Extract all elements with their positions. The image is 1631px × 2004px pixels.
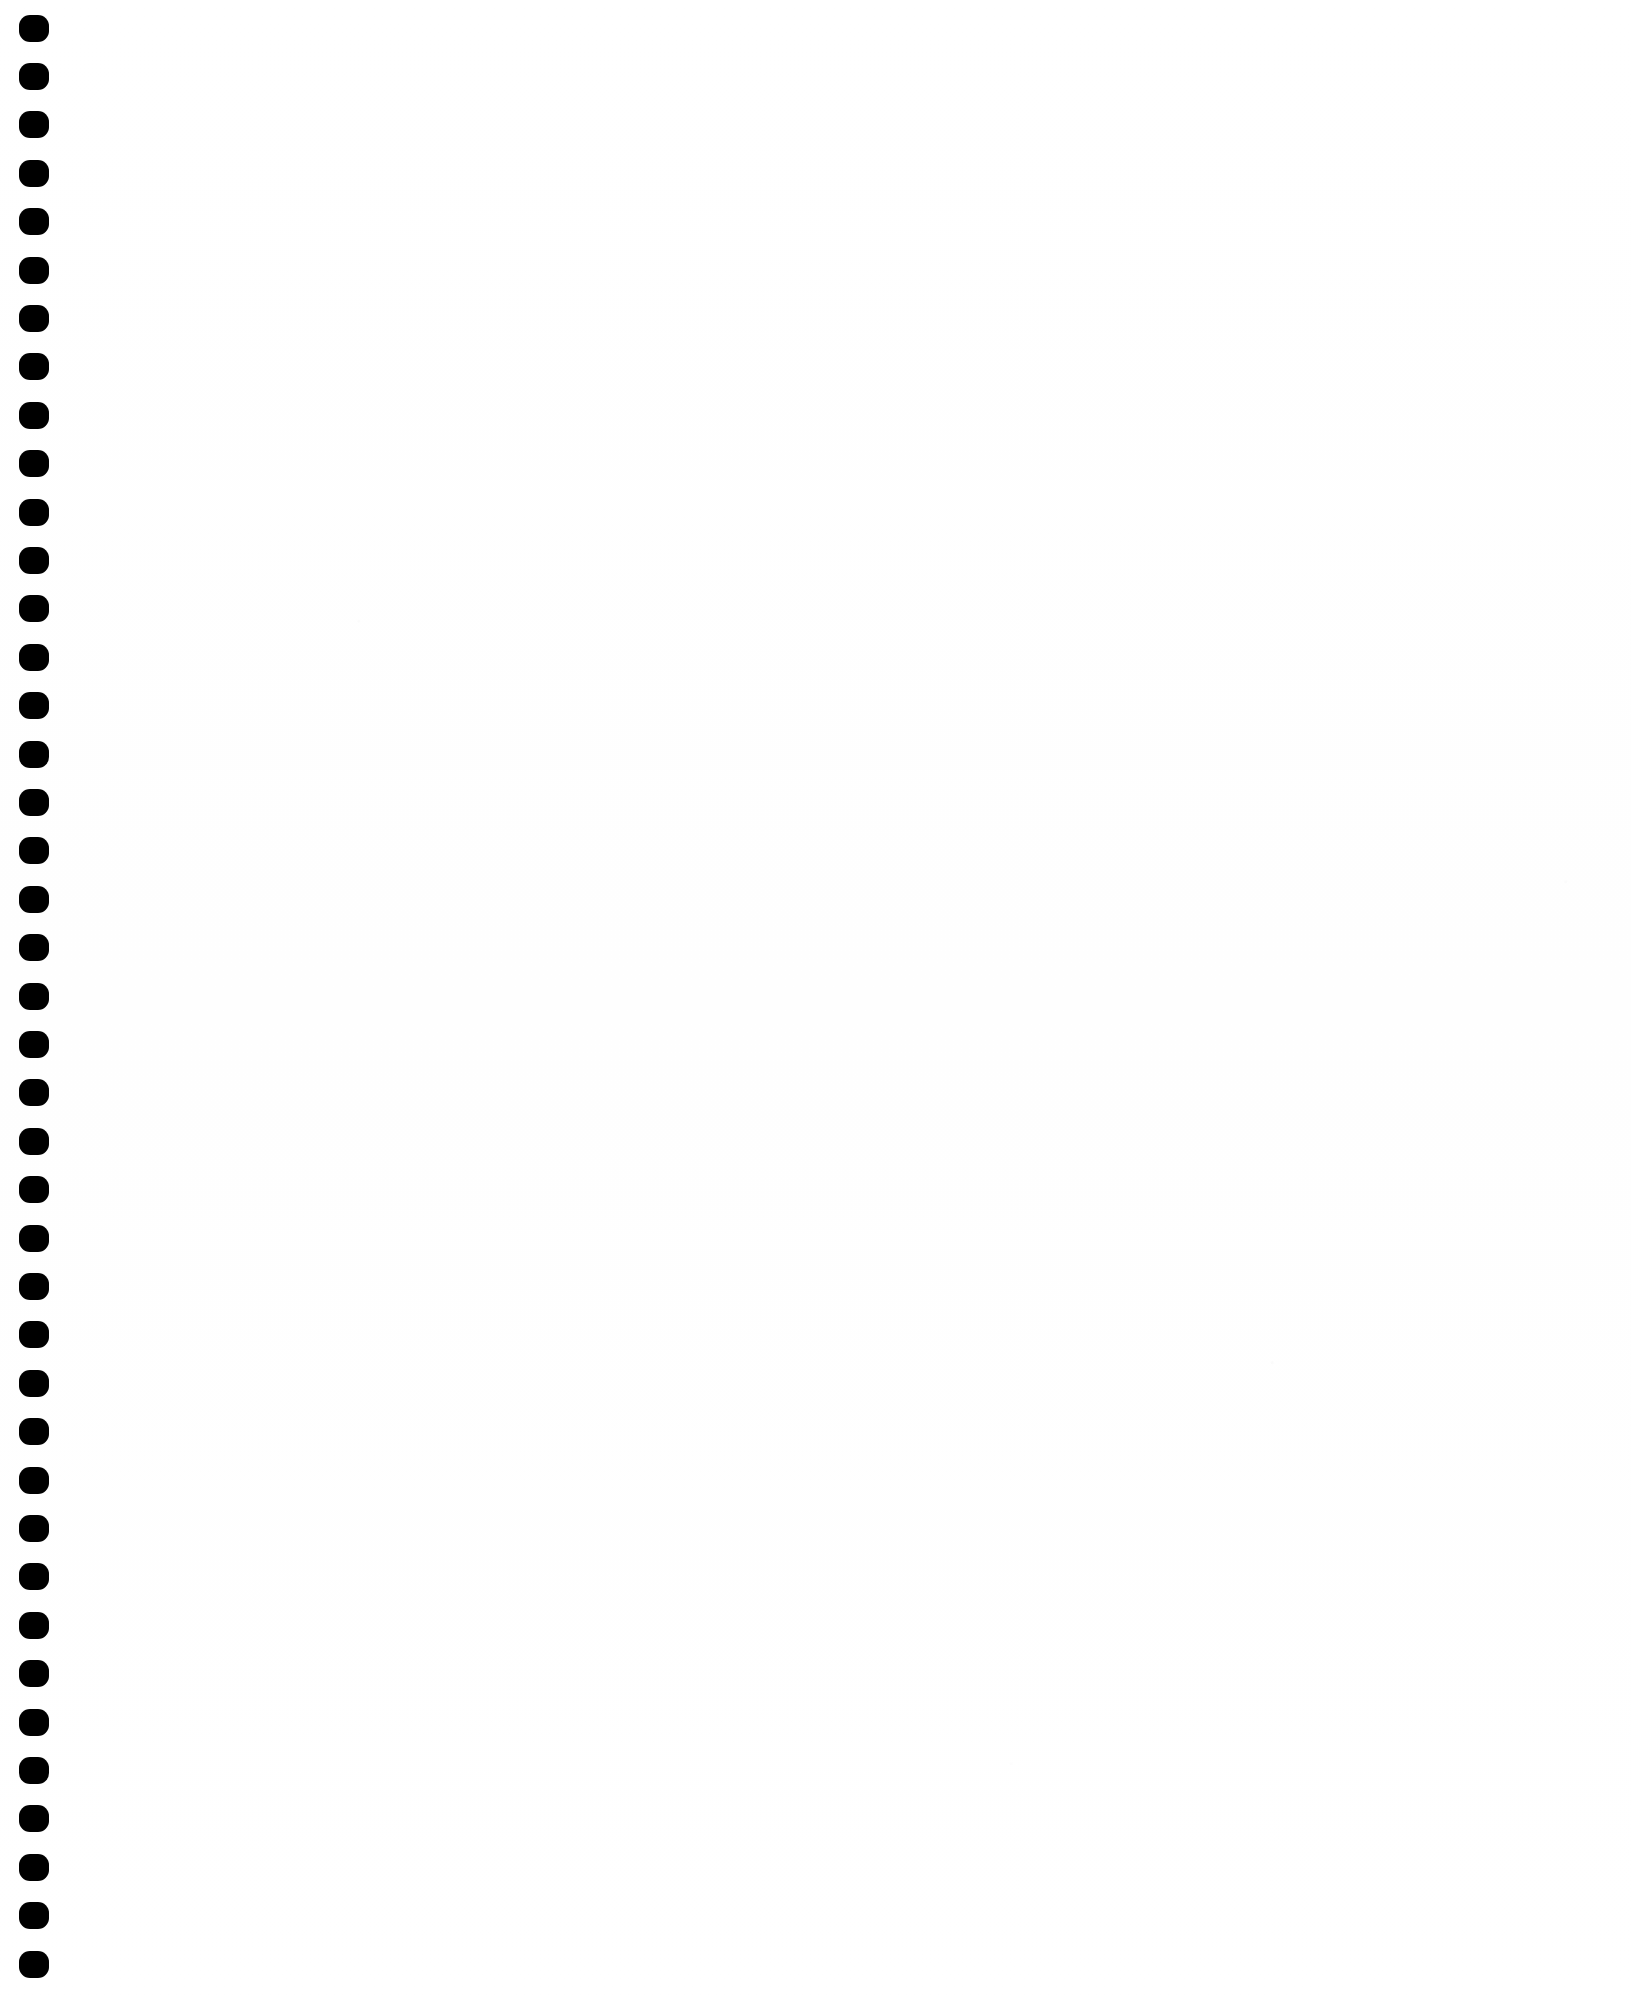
punch-hole-icon <box>19 1515 49 1542</box>
punch-hole-icon <box>19 1467 49 1494</box>
punch-hole-icon <box>19 257 49 284</box>
punch-hole-icon <box>19 1031 49 1058</box>
punch-hole-icon <box>19 1563 49 1590</box>
punch-hole-icon <box>19 1709 49 1736</box>
punch-hole-icon <box>19 1854 49 1881</box>
punch-hole-icon <box>19 63 49 90</box>
punch-hole-icon <box>19 1805 49 1832</box>
punch-hole-icon <box>19 1757 49 1784</box>
punch-hole-icon <box>19 1273 49 1300</box>
punch-hole-icon <box>19 402 49 429</box>
punch-hole-icon <box>19 789 49 816</box>
punch-hole-icon <box>19 1321 49 1348</box>
punch-hole-icon <box>19 1418 49 1445</box>
punch-hole-icon <box>19 111 49 138</box>
page-content-area <box>70 0 1631 2004</box>
punch-hole-icon <box>19 1612 49 1639</box>
punch-hole-icon <box>19 692 49 719</box>
punch-hole-icon <box>19 934 49 961</box>
punch-hole-icon <box>19 1660 49 1687</box>
punch-hole-icon <box>19 1128 49 1155</box>
punch-hole-icon <box>19 305 49 332</box>
punch-hole-icon <box>19 886 49 913</box>
punch-hole-icon <box>19 1176 49 1203</box>
punch-hole-icon <box>19 547 49 574</box>
spiral-binding-holes <box>0 0 70 2004</box>
punch-hole-icon <box>19 1079 49 1106</box>
punch-hole-icon <box>19 1225 49 1252</box>
punch-hole-icon <box>19 15 49 42</box>
punch-hole-icon <box>19 1370 49 1397</box>
punch-hole-icon <box>19 353 49 380</box>
punch-hole-icon <box>19 160 49 187</box>
punch-hole-icon <box>19 741 49 768</box>
punch-hole-icon <box>19 644 49 671</box>
punch-hole-icon <box>19 499 49 526</box>
punch-hole-icon <box>19 983 49 1010</box>
punch-hole-icon <box>19 1951 49 1978</box>
punch-hole-icon <box>19 837 49 864</box>
punch-hole-icon <box>19 450 49 477</box>
punch-hole-icon <box>19 208 49 235</box>
punch-hole-icon <box>19 1902 49 1929</box>
scanned-page <box>0 0 1631 2004</box>
punch-hole-icon <box>19 595 49 622</box>
